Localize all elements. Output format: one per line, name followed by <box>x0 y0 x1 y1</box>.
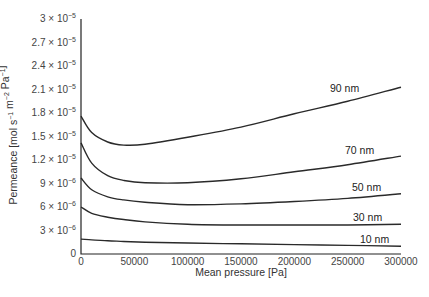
curve-10-nm <box>81 239 401 246</box>
series-label: 70 nm <box>345 144 374 156</box>
y-tick-label: 2.1 × 10−5 <box>32 83 77 95</box>
y-tick-label: 0 <box>70 248 76 259</box>
series-label: 30 nm <box>353 211 382 223</box>
y-tick-label: 9 × 10−6 <box>40 177 76 189</box>
y-tick-label: 3 × 10−5 <box>40 12 76 24</box>
permeance-chart: 03 × 10−66 × 10−69 × 10−61.2 × 10−51.5 ×… <box>0 0 429 297</box>
x-axis-title: Mean pressure [Pa] <box>195 266 287 278</box>
curve-90-nm <box>81 87 401 145</box>
y-tick-label: 2.7 × 10−5 <box>32 36 77 48</box>
y-axis-title: Permeance [mol s−1 m−2 Pa−1] <box>0 65 19 204</box>
y-axis-tick-labels: 03 × 10−66 × 10−69 × 10−61.2 × 10−51.5 ×… <box>32 12 77 259</box>
y-tick-label: 1.8 × 10−5 <box>32 106 77 118</box>
y-tick-label: 2.4 × 10−5 <box>32 59 77 71</box>
y-tick-label: 6 × 10−6 <box>40 200 76 212</box>
series-label: 10 nm <box>360 233 389 245</box>
x-tick-label: 250000 <box>331 256 365 267</box>
series-label: 50 nm <box>352 181 381 193</box>
y-tick-label: 3 × 10−6 <box>40 224 76 236</box>
x-tick-label: 50000 <box>120 256 148 267</box>
x-tick-label: 300000 <box>384 256 418 267</box>
x-tick-label: 0 <box>78 256 84 267</box>
series-label: 90 nm <box>330 82 359 94</box>
y-tick-label: 1.2 × 10−5 <box>32 153 77 165</box>
y-tick-label: 1.5 × 10−5 <box>32 130 77 142</box>
